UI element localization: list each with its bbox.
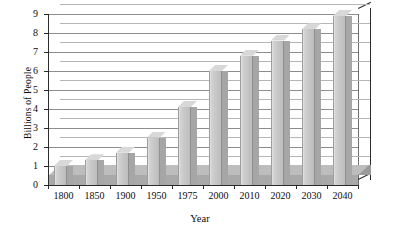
bar-front-face (178, 107, 191, 185)
bar-chart: Billions of People 0123456789 1800185019… (0, 0, 400, 247)
y-axis-tick-6 (44, 71, 49, 72)
x-axis-tick-2040 (327, 185, 328, 189)
bar-side-face (284, 41, 290, 185)
y-axis-label-3: 3 (18, 123, 38, 133)
bar-1800 (54, 166, 73, 185)
y-axis-tick-1 (44, 166, 49, 167)
y-axis-tick-7 (44, 52, 49, 53)
y-axis-tick-3 (44, 128, 49, 129)
bar-1850 (85, 160, 104, 185)
bar-2010 (240, 56, 259, 185)
y-axis-label-6: 6 (18, 66, 38, 76)
bar-side-face (346, 16, 352, 185)
y-axis-label-4: 4 (18, 104, 38, 114)
x-axis-tick-2010 (234, 185, 235, 189)
bar-side-face (129, 153, 135, 185)
bar-front-face (54, 166, 67, 185)
bar-front-face (147, 138, 160, 186)
y-axis-label-5: 5 (18, 85, 38, 95)
gridline-back-8 (60, 23, 370, 24)
gridline-9 (49, 14, 358, 15)
y-axis-tick-9 (44, 14, 49, 15)
bar-1900 (116, 153, 135, 185)
x-axis-tick-2000 (203, 185, 204, 189)
y-axis-tick-4 (44, 109, 49, 110)
y-axis-label-9: 9 (18, 9, 38, 19)
y-axis-tick-5 (44, 90, 49, 91)
bar-front-face (271, 41, 284, 185)
x-axis-tick-2020 (265, 185, 266, 189)
bar-2030 (302, 29, 321, 185)
plot-frame-right-edge (358, 14, 359, 186)
x-axis-tick-1850 (79, 185, 80, 189)
bar-front-face (116, 153, 129, 185)
bar-2000 (209, 71, 228, 185)
y-axis-label-1: 1 (18, 161, 38, 171)
x-axis-tick-1800 (48, 185, 49, 189)
bar-front-face (333, 16, 346, 185)
bar-2020 (271, 41, 290, 185)
bar-side-face (67, 166, 73, 185)
bar-front-face (302, 29, 315, 185)
bar-side-face (222, 71, 228, 185)
x-axis-tick-1950 (141, 185, 142, 189)
plot-frame-left-edge (48, 14, 49, 186)
bar-side-face (315, 29, 321, 185)
x-axis-label-2040: 2040 (321, 190, 365, 201)
x-axis-tick-1900 (110, 185, 111, 189)
gridline-back-6 (60, 61, 370, 62)
x-axis-tick-2030 (296, 185, 297, 189)
x-axis-title: Year (0, 213, 400, 224)
y-axis-tick-8 (44, 33, 49, 34)
bar-side-face (253, 56, 259, 185)
bar-1950 (147, 138, 166, 186)
bar-front-face (240, 56, 253, 185)
bar-2040 (333, 16, 352, 185)
y-axis-label-2: 2 (18, 142, 38, 152)
y-axis-tick-2 (44, 147, 49, 148)
gridline-back-7 (60, 42, 370, 43)
y-axis-label-0: 0 (18, 180, 38, 190)
y-axis-label-8: 8 (18, 28, 38, 38)
bar-side-face (160, 138, 166, 186)
bar-front-face (209, 71, 222, 185)
bar-side-face (191, 107, 197, 185)
plot-depth-right-edge (370, 8, 371, 180)
bar-front-face (85, 160, 98, 185)
bar-side-face (98, 160, 104, 185)
gridline-back-9 (60, 4, 370, 5)
bar-1975 (178, 107, 197, 185)
y-axis-label-7: 7 (18, 47, 38, 57)
x-axis-tick-end (358, 185, 359, 189)
x-axis-tick-1975 (172, 185, 173, 189)
